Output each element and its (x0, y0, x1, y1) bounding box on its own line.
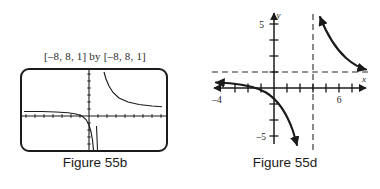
calculator-window-spec: [–8, 8, 1] by [–8, 8, 1] (0, 50, 190, 62)
calc-curve-right-branch (104, 72, 162, 107)
figure-55d: y x –4 6 5 –5 Figure 55d (190, 0, 380, 189)
x-tick-label-neg4: –4 (211, 95, 222, 105)
y-tick-label-5: 5 (259, 20, 264, 30)
x-axis-label: x (361, 74, 366, 84)
calc-x-axis (22, 114, 166, 118)
calc-y-axis (87, 70, 90, 150)
coordinate-plane-svg: y x –4 6 5 –5 (190, 2, 380, 157)
graphing-calculator-screen (20, 68, 168, 152)
y-axis-label: y (276, 10, 281, 20)
calc-curve-left-branch (24, 112, 94, 151)
curve-upper-right-branch (320, 17, 366, 70)
calculator-graph-svg (22, 70, 166, 150)
calc-vertical-asymptote-artifact (97, 126, 98, 150)
figure-panel: [–8, 8, 1] by [–8, 8, 1] (0, 0, 380, 189)
figure-55b: [–8, 8, 1] by [–8, 8, 1] (0, 0, 190, 189)
y-tick-label-neg5: –5 (256, 132, 267, 142)
figure-55b-caption: Figure 55b (0, 155, 190, 170)
figure-55d-caption: Figure 55d (190, 155, 380, 170)
x-tick-label-6: 6 (337, 95, 342, 105)
